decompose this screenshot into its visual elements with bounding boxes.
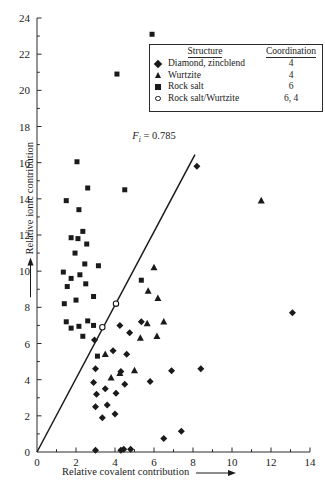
legend-marker-circle-icon xyxy=(150,93,166,105)
legend-marker-triangle-icon xyxy=(150,70,166,82)
data-point-square xyxy=(65,284,70,289)
data-point-square xyxy=(69,276,74,281)
data-point-diamond xyxy=(112,390,119,397)
x-tick-label: 0 xyxy=(34,456,40,468)
data-point-square xyxy=(61,270,66,275)
data-point-square xyxy=(76,207,81,212)
data-point-triangle xyxy=(258,197,265,204)
legend-structure-label: Rock salt xyxy=(166,81,260,93)
data-point-square xyxy=(73,251,78,256)
y-axis-arrow-icon xyxy=(26,257,34,297)
data-point-diamond xyxy=(116,322,123,329)
y-tick-label: 22 xyxy=(19,48,30,60)
legend-header-coordination: Coordination xyxy=(260,45,322,58)
data-point-diamond xyxy=(193,163,200,170)
data-point-triangle xyxy=(145,287,152,294)
data-point-triangle xyxy=(154,294,161,301)
legend-structure-label: Rock salt/Wurtzite xyxy=(166,93,260,105)
data-point-circle xyxy=(100,325,105,330)
data-point-square xyxy=(91,294,96,299)
legend-header-structure-label: Structure xyxy=(188,47,223,58)
data-point-diamond xyxy=(138,318,145,325)
legend: Structure Coordination Diamond, zincblen… xyxy=(149,44,323,112)
data-point-square xyxy=(91,323,96,328)
legend-coordination-value: 6 xyxy=(260,81,322,93)
data-point-square xyxy=(69,326,74,331)
data-point-square xyxy=(74,159,79,164)
data-point-triangle xyxy=(151,264,158,271)
data-point-triangle xyxy=(144,320,151,327)
data-point-square xyxy=(75,236,80,241)
data-point-diamond xyxy=(123,351,130,358)
legend-coordination-value: 4 xyxy=(260,58,322,70)
data-point-square xyxy=(150,32,155,37)
scatter-chart-figure: 02468101214024681012141618202224Fi = 0.7… xyxy=(0,0,325,487)
legend-row: Diamond, zincblend4 xyxy=(150,58,322,70)
y-tick-label: 6 xyxy=(25,338,31,350)
y-tick-label: 24 xyxy=(19,12,31,24)
legend-row: Wurtzite4 xyxy=(150,70,322,82)
data-point-square xyxy=(62,301,67,306)
legend-header-row: Structure Coordination xyxy=(150,45,322,58)
x-tick-label: 14 xyxy=(305,456,317,468)
series-diamond xyxy=(90,163,296,454)
data-point-diamond xyxy=(102,385,109,392)
data-point-diamond xyxy=(197,365,204,372)
data-point-diamond xyxy=(92,447,99,454)
data-point-diamond xyxy=(110,347,117,354)
data-point-diamond xyxy=(104,401,111,408)
data-point-square xyxy=(84,242,89,247)
data-point-square xyxy=(80,334,85,339)
x-axis-arrow-icon xyxy=(196,469,236,477)
data-point-square xyxy=(96,263,101,268)
x-tick-label: 12 xyxy=(266,456,277,468)
data-point-square xyxy=(69,235,74,240)
data-point-square xyxy=(122,187,127,192)
data-point-triangle xyxy=(102,351,109,358)
data-point-square xyxy=(85,185,90,190)
data-point-diamond xyxy=(289,309,296,316)
data-point-diamond xyxy=(92,403,99,410)
legend-coordination-value: 6, 4 xyxy=(260,93,322,105)
data-point-square xyxy=(95,354,100,359)
legend-row: Rock salt6 xyxy=(150,81,322,93)
data-point-diamond xyxy=(90,379,97,386)
data-point-diamond xyxy=(160,435,167,442)
data-point-diamond xyxy=(178,428,185,435)
data-point-triangle xyxy=(153,332,160,339)
data-point-diamond xyxy=(91,336,98,343)
legend-header-structure: Structure xyxy=(150,45,260,58)
legend-table: Structure Coordination Diamond, zincblen… xyxy=(150,45,322,104)
data-point-circle xyxy=(113,301,118,306)
data-point-diamond xyxy=(126,329,133,336)
legend-marker-diamond-icon xyxy=(150,58,166,70)
data-point-diamond xyxy=(99,414,106,421)
data-point-square xyxy=(76,324,81,329)
y-axis-title-text: Relative ionic contribution xyxy=(24,142,35,255)
x-axis-title: Relative covalent contribution xyxy=(62,466,236,477)
legend-body: Diamond, zincblend4Wurtzite4Rock salt6Ro… xyxy=(150,58,322,104)
y-axis-title: Relative ionic contribution xyxy=(24,137,35,307)
data-point-square xyxy=(83,281,88,286)
y-tick-label: 2 xyxy=(25,410,31,422)
data-point-diamond xyxy=(93,391,100,398)
y-tick-label: 4 xyxy=(25,374,31,386)
data-point-diamond xyxy=(168,367,175,374)
data-point-square xyxy=(114,72,119,77)
data-point-square xyxy=(74,298,79,303)
data-point-triangle xyxy=(131,367,138,374)
data-point-diamond xyxy=(92,365,99,372)
data-point-square xyxy=(64,319,69,324)
legend-marker-square-icon xyxy=(150,81,166,93)
data-point-triangle xyxy=(137,334,144,341)
x-axis-title-text: Relative covalent contribution xyxy=(62,466,189,477)
y-tick-label: 18 xyxy=(19,121,31,133)
legend-header-coordination-label: Coordination xyxy=(266,47,316,58)
series-square xyxy=(61,32,155,359)
y-tick-label: 20 xyxy=(19,84,31,96)
data-point-square xyxy=(82,261,87,266)
data-point-square xyxy=(85,318,90,323)
data-point-diamond xyxy=(121,381,128,388)
data-point-square xyxy=(64,198,69,203)
legend-structure-label: Wurtzite xyxy=(166,70,260,82)
